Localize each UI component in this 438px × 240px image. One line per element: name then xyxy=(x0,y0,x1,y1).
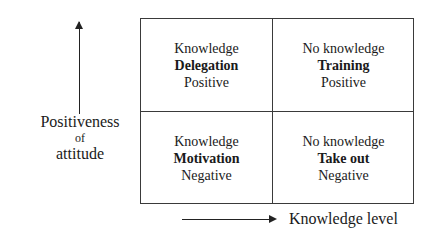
quadrant-attitude: Positive xyxy=(321,74,366,91)
quadrant-action: Motivation xyxy=(173,150,239,167)
quadrant-attitude: Positive xyxy=(184,74,229,91)
quadrant-top-left: Knowledge Delegation Positive xyxy=(141,19,272,111)
quadrant-knowledge: Knowledge xyxy=(174,40,239,57)
quadrant-knowledge: Knowledge xyxy=(174,133,239,150)
y-axis-label-line3: attitude xyxy=(20,145,140,163)
quadrant-bottom-right: No knowledge Take out Negative xyxy=(273,112,414,204)
x-axis-label: Knowledge level xyxy=(289,209,398,229)
arrow-up-icon xyxy=(75,21,83,29)
y-axis-label-line2: of xyxy=(20,131,140,145)
x-axis-arrow-line xyxy=(182,219,270,220)
quadrant-action: Training xyxy=(318,57,370,74)
quadrant-grid: Knowledge Delegation Positive No knowled… xyxy=(140,18,414,204)
quadrant-knowledge: No knowledge xyxy=(302,133,384,150)
quadrant-attitude: Negative xyxy=(318,167,369,184)
y-axis-label: Positiveness of attitude xyxy=(20,113,140,163)
y-axis-label-line1: Positiveness xyxy=(20,113,140,131)
quadrant-knowledge: No knowledge xyxy=(302,40,384,57)
arrow-right-icon xyxy=(269,215,277,223)
y-axis-arrow-line xyxy=(79,22,80,114)
quadrant-action: Take out xyxy=(317,150,369,167)
quadrant-attitude: Negative xyxy=(181,167,232,184)
quadrant-action: Delegation xyxy=(175,57,239,74)
quadrant-bottom-left: Knowledge Motivation Negative xyxy=(141,112,272,204)
quadrant-top-right: No knowledge Training Positive xyxy=(273,19,414,111)
